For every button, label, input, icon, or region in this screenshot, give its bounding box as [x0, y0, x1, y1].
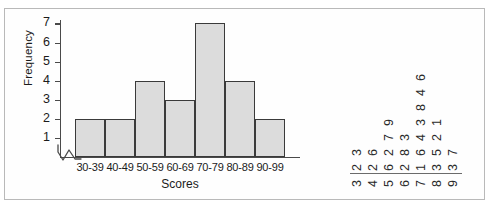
leaf-value: 1	[414, 160, 429, 175]
y-tick-mark	[55, 43, 60, 44]
leaf-value: 6	[414, 70, 429, 85]
stem-and-leaf-plot: 3234265627962837164384683521937	[350, 22, 476, 192]
y-tick-mark	[55, 100, 60, 101]
bar-series	[75, 20, 285, 157]
x-axis-line	[60, 157, 300, 158]
y-tick-label: 5	[34, 55, 50, 68]
histogram-bar	[165, 100, 195, 157]
leaf-value: 7	[382, 130, 397, 145]
stem-value: 3	[349, 176, 366, 191]
histogram-bar	[195, 23, 225, 157]
y-tick-mark	[55, 23, 60, 24]
stem-leaf-row: 323	[350, 145, 365, 192]
stem-value: 6	[397, 176, 414, 191]
stem-leaf-row: 6283	[398, 130, 413, 192]
stem-value: 4	[365, 176, 382, 191]
leaf-value: 3	[350, 145, 365, 160]
stem-leaf-row: 426	[366, 145, 381, 192]
leaf-value: 8	[398, 145, 413, 160]
y-tick-label: 1	[34, 131, 50, 144]
histogram-figure: Frequency 1234567 30-3940-4950-5960-6970…	[0, 0, 490, 208]
y-tick-mark	[55, 62, 60, 63]
y-tick-mark	[55, 138, 60, 139]
leaf-value: 2	[430, 130, 445, 145]
y-tick-mark	[55, 119, 60, 120]
stem-value: 5	[381, 176, 398, 191]
leaf-value: 4	[414, 130, 429, 145]
leaf-value: 6	[366, 145, 381, 160]
histogram-panel: Frequency 1234567 30-3940-4950-5960-6970…	[12, 12, 312, 197]
leaf-value: 2	[382, 145, 397, 160]
leaf-value: 3	[398, 130, 413, 145]
histogram-bar	[75, 119, 105, 157]
leaf-value: 3	[414, 115, 429, 130]
leaf-value: 6	[414, 145, 429, 160]
stem-value: 7	[413, 176, 430, 191]
histogram-bar	[105, 119, 135, 157]
leaf-value: 2	[366, 160, 381, 175]
histogram-bar	[225, 81, 255, 157]
y-tick-label: 4	[34, 74, 50, 87]
stem-value: 9	[445, 176, 462, 191]
stem-leaf-row: 83521	[430, 115, 445, 192]
y-tick-label: 6	[34, 36, 50, 49]
x-tick-label: 90-99	[250, 161, 290, 173]
histogram-bar	[135, 81, 165, 157]
y-tick-mark	[55, 81, 60, 82]
leaf-value: 4	[414, 85, 429, 100]
stem-leaf-row: 56279	[382, 115, 397, 192]
y-axis-title: Frequency	[22, 0, 34, 118]
leaf-value: 3	[446, 160, 461, 175]
y-tick-label: 2	[34, 112, 50, 125]
y-axis-line	[60, 20, 61, 157]
leaf-value: 7	[446, 145, 461, 160]
stem-leaf-row: 71643846	[414, 70, 429, 192]
y-tick-label: 3	[34, 93, 50, 106]
leaf-value: 1	[430, 115, 445, 130]
histogram-bar	[255, 119, 285, 157]
leaf-value: 8	[414, 100, 429, 115]
leaf-value: 3	[430, 160, 445, 175]
stem-leaf-row: 937	[446, 145, 461, 192]
y-tick-label: 7	[34, 16, 50, 29]
stem-value: 8	[429, 176, 446, 191]
x-axis-title: Scores	[75, 177, 285, 191]
leaf-value: 9	[382, 115, 397, 130]
leaf-value: 2	[398, 160, 413, 175]
leaf-value: 6	[382, 160, 397, 175]
leaf-value: 5	[430, 145, 445, 160]
leaf-value: 2	[350, 160, 365, 175]
